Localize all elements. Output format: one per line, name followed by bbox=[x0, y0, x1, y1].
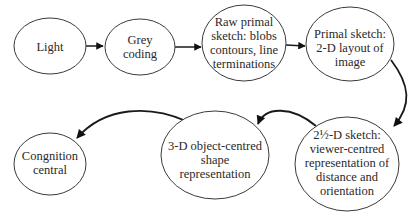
node-primal-sketch-line: image bbox=[335, 55, 366, 69]
node-grey-coding-line: Grey bbox=[128, 33, 154, 47]
node-raw-primal-line: terminations bbox=[213, 57, 276, 71]
node-two-and-half-d-sketch: 2½-D sketch: viewer-centred representati… bbox=[295, 117, 399, 211]
node-primal-sketch-line: Primal sketch: bbox=[314, 27, 386, 41]
node-twohalf-line: 2½-D sketch: bbox=[313, 128, 380, 142]
node-light-label: Light bbox=[36, 40, 64, 54]
node-three-d-object-centred: 3-D object-centred shape representation bbox=[161, 111, 269, 199]
node-raw-primal-line: Raw primal bbox=[215, 15, 274, 29]
node-cognition-line: central bbox=[33, 163, 68, 177]
node-twohalf-line: representation of bbox=[305, 156, 390, 170]
edge-primal-to-twohalf bbox=[391, 60, 406, 126]
node-cognition-line: Congnition bbox=[22, 149, 79, 163]
edge-raw-to-primal bbox=[286, 45, 305, 46]
node-twohalf-line: distance and bbox=[316, 170, 379, 184]
node-light: Light bbox=[14, 18, 86, 74]
node-grey-coding: Grey coding bbox=[105, 19, 175, 75]
node-raw-primal-line: contours, line bbox=[210, 43, 278, 57]
node-twohalf-line: orientation bbox=[320, 184, 375, 198]
node-threed-line: 3-D object-centred bbox=[168, 139, 263, 153]
node-threed-line: representation bbox=[180, 167, 252, 181]
node-grey-coding-line: coding bbox=[123, 47, 158, 61]
node-threed-line: shape bbox=[201, 153, 230, 167]
node-primal-sketch: Primal sketch: 2-D layout of image bbox=[306, 7, 394, 81]
node-raw-primal-line: sketch: blobs bbox=[211, 29, 277, 43]
node-raw-primal-sketch: Raw primal sketch: blobs contours, line … bbox=[202, 5, 286, 81]
edge-twohalf-to-threed-arc bbox=[258, 111, 316, 126]
node-cognition-central: Congnition central bbox=[14, 133, 86, 195]
node-twohalf-line: viewer-centred bbox=[310, 142, 385, 156]
vision-pipeline-diagram: Light Grey coding Raw primal sketch: blo… bbox=[0, 0, 416, 220]
node-primal-sketch-line: 2-D layout of bbox=[316, 41, 384, 55]
